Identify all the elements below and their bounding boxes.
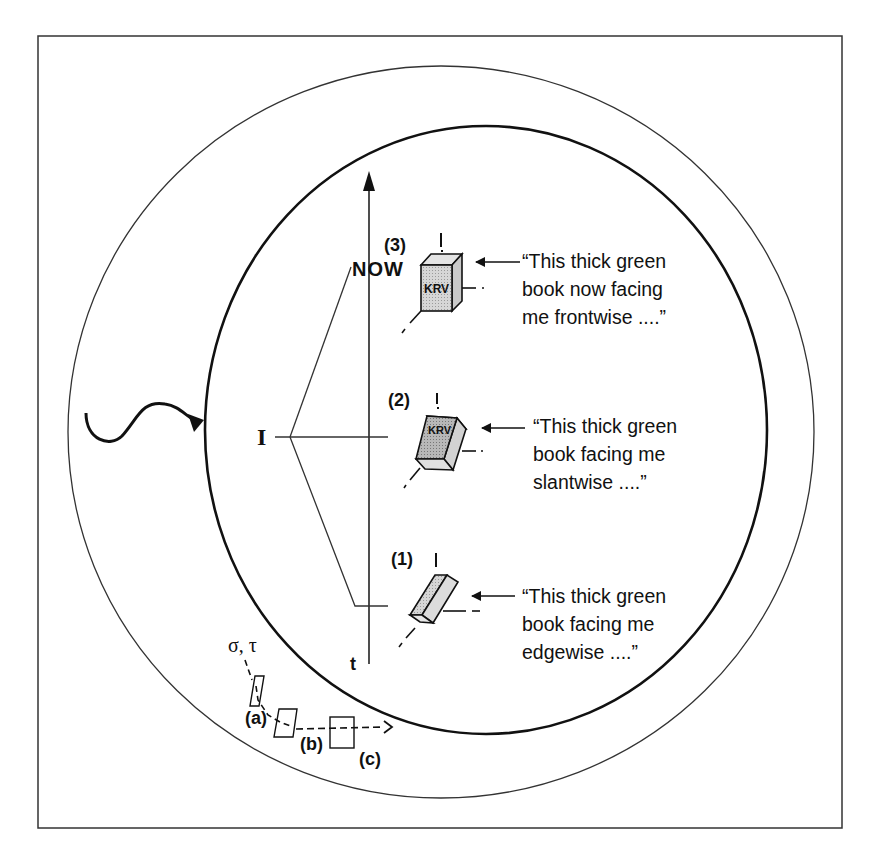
book-slantwise-icon: KRV	[416, 416, 466, 470]
phenomenology-diagram: t I NOW (3) KRV “This thick green book n…	[0, 0, 874, 856]
time-axis-label: t	[350, 654, 356, 674]
book-title: KRV	[428, 424, 452, 436]
stage-2-quote: “This thick green book facing me slantwi…	[533, 415, 683, 493]
book-title: KRV	[424, 282, 449, 296]
inner-circle	[205, 126, 767, 734]
stage-2: (2) KRV “This thick green book facing me…	[388, 390, 683, 493]
position-c-label: (c)	[359, 749, 381, 769]
subject-label: I	[257, 424, 266, 450]
time-axis-arrow-icon	[363, 171, 375, 191]
now-label: NOW	[352, 258, 404, 280]
subject-line-top	[290, 267, 351, 437]
position-a-label: (a)	[245, 708, 267, 728]
stage-2-number: (2)	[388, 390, 410, 410]
stage-3-number: (3)	[384, 235, 406, 255]
book-frontwise-icon: KRV	[421, 254, 462, 311]
stage-1-number: (1)	[391, 549, 413, 569]
stage-1: (1) “This thick green book facing me edg…	[391, 549, 672, 663]
stimulus-label: σ, τ	[228, 634, 257, 656]
object-position-b	[274, 709, 297, 737]
subject-line-bottom	[290, 437, 388, 606]
stage-1-quote: “This thick green book facing me edgewis…	[522, 585, 672, 663]
stage-3: (3) KRV “This thick green book now facin…	[384, 233, 672, 333]
position-b-label: (b)	[300, 734, 323, 754]
wavy-arrow-icon	[86, 403, 204, 441]
stimulus-path: σ, τ (a) (b) (c)	[228, 634, 392, 769]
stage-3-quote: “This thick green book now facing me fro…	[522, 250, 672, 328]
object-position-c	[330, 717, 354, 748]
book-edgewise-icon	[410, 575, 458, 623]
